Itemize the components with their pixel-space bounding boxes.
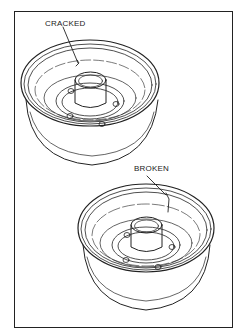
top-drum: [21, 27, 159, 165]
cracked-label: CRACKED: [45, 19, 86, 28]
broken-label: BROKEN: [134, 164, 169, 173]
brake-drums-illustration: [0, 0, 242, 335]
bottom-drum: [78, 176, 214, 310]
